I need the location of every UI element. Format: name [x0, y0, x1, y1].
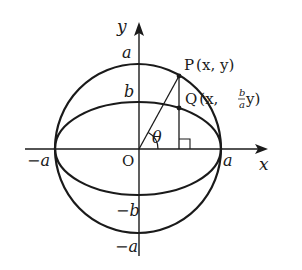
point-P [177, 74, 182, 79]
point-Q-frac-den: a [239, 99, 245, 110]
y-axis-label: y [116, 16, 127, 36]
point-P-coords: (x, y) [196, 56, 234, 74]
angle-theta-label: θ [152, 128, 162, 147]
point-Q-frac-num: b [239, 87, 245, 98]
right-angle-mark [179, 139, 190, 149]
tick-label-a-x: a [223, 151, 233, 170]
origin-label: O [122, 152, 134, 170]
point-Q [177, 106, 182, 111]
x-axis-label: x [259, 154, 269, 174]
point-Q-label: Q(x, [185, 90, 218, 108]
tick-label-neg-a-y: −a [115, 237, 138, 256]
point-P-label: P(x, y) [184, 56, 234, 74]
point-Q-coords-suffix: y) [245, 90, 260, 108]
ellipse-circle-diagram: y x O −a a a b −b −a θ P(x, y) Q(x, b a … [0, 0, 302, 270]
tick-label-neg-b-y: −b [116, 201, 140, 220]
point-P-name: P [184, 56, 194, 74]
point-Q-name: Q [185, 90, 197, 108]
tick-label-a-y: a [122, 43, 132, 62]
tick-label-b-y: b [124, 82, 134, 101]
point-Q-coords-prefix: (x, [199, 90, 218, 108]
tick-label-neg-a-x: −a [27, 151, 50, 170]
